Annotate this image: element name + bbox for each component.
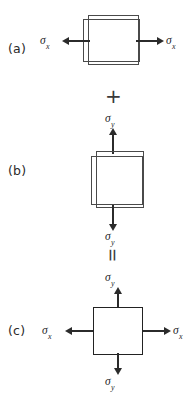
panel-c-sigma-x-right-label: σx: [173, 325, 182, 339]
panel-c-stress-element-box: [93, 307, 143, 355]
panel-c-sigma-y-down-arrow: [113, 353, 123, 375]
sigma-subscript: y: [111, 238, 115, 247]
sigma-glyph: σ: [166, 34, 172, 46]
panel-a-sigma-x-left-arrow: [62, 36, 90, 46]
sigma-glyph: σ: [105, 112, 111, 124]
panel-b-sigma-y-top-label: σy: [105, 113, 114, 127]
panel-a-sigma-x-right-label: σx: [166, 35, 175, 49]
stress-superposition-figure: (a) σx σx + (b) σy σy = (c) σy: [0, 0, 192, 413]
sigma-glyph: σ: [42, 324, 48, 336]
panel-label-c: (c): [8, 323, 25, 338]
panel-a-sigma-x-right-arrow: [136, 36, 164, 46]
panel-label-a: (a): [8, 41, 26, 56]
sigma-subscript: x: [48, 332, 52, 341]
sigma-subscript: x: [172, 42, 176, 51]
panel-c-sigma-x-left-arrow: [65, 326, 93, 336]
sigma-glyph: σ: [105, 271, 111, 283]
panel-c-sigma-x-left-label: σx: [42, 325, 51, 339]
sigma-subscript: x: [46, 42, 50, 51]
sigma-glyph: σ: [173, 324, 179, 336]
sigma-subscript: y: [111, 383, 115, 392]
sigma-subscript: x: [179, 332, 183, 341]
panel-c-sigma-y-top-label: σy: [105, 272, 114, 286]
panel-b-sigma-y-down-arrow: [108, 205, 118, 231]
panel-c-sigma-y-up-arrow: [113, 287, 123, 309]
sigma-glyph: σ: [40, 34, 46, 46]
panel-b-sigma-y-bottom-label: σy: [105, 231, 114, 245]
sigma-glyph: σ: [105, 230, 111, 242]
equals-operator: =: [104, 248, 121, 263]
panel-c-sigma-y-bottom-label: σy: [105, 376, 114, 390]
panel-a-original-box: [88, 15, 139, 65]
panel-c-sigma-x-right-arrow: [143, 326, 171, 336]
panel-label-b: (b): [8, 163, 26, 178]
panel-b-original-box: [91, 156, 143, 205]
plus-operator: +: [105, 86, 122, 106]
panel-a-sigma-x-left-label: σx: [40, 35, 49, 49]
sigma-glyph: σ: [105, 375, 111, 387]
